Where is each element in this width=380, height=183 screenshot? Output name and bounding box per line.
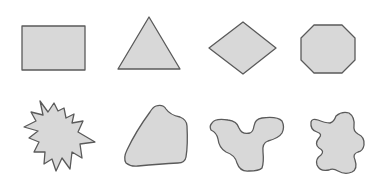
rectangle-shape bbox=[22, 26, 85, 70]
shapes-figure bbox=[0, 0, 380, 183]
octagon-shape bbox=[301, 25, 355, 73]
